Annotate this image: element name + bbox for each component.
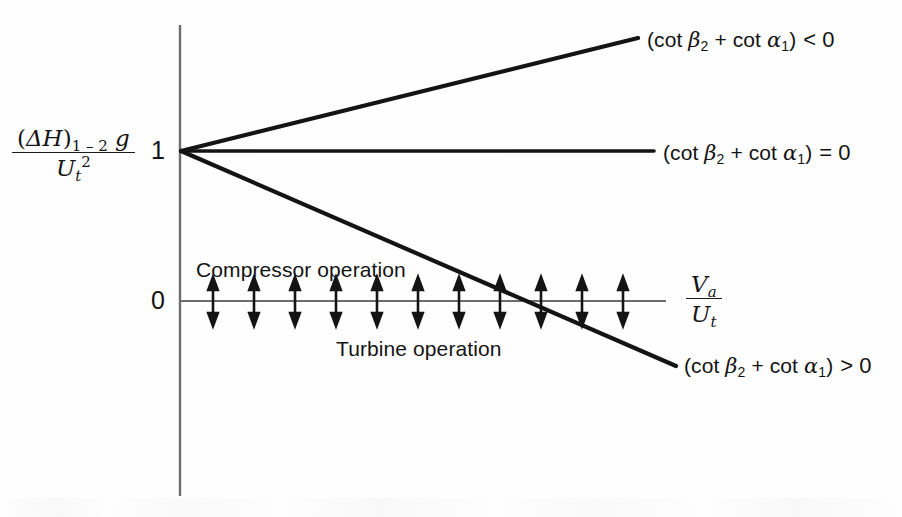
curve-label-negative-sum: (cot β2 + cot α1) < 0 bbox=[647, 27, 836, 53]
curve-label-positive-sum: (cot β2 + cot α1) > 0 bbox=[684, 353, 873, 379]
relation-operator: = 0 bbox=[818, 140, 852, 165]
scan-artifact bbox=[0, 498, 902, 517]
beta-subscript: 2 bbox=[717, 151, 725, 167]
beta-symbol: β bbox=[688, 28, 700, 52]
x-axis-title-fraction: Va Ut bbox=[686, 272, 722, 326]
alpha-symbol: α bbox=[804, 354, 818, 378]
tip-speed-subscript-x: t bbox=[710, 313, 716, 331]
alpha-subscript: 1 bbox=[797, 151, 805, 167]
tip-speed-symbol: U bbox=[56, 155, 75, 181]
beta-symbol: β bbox=[725, 354, 737, 378]
y-axis-title-numerator: (ΔH)1 – 2 g bbox=[12, 126, 135, 152]
relation-operator: > 0 bbox=[839, 353, 873, 378]
alpha-symbol: α bbox=[783, 141, 797, 165]
tip-speed-exponent: 2 bbox=[81, 153, 91, 171]
axial-velocity-subscript: a bbox=[708, 283, 717, 301]
beta-subscript: 2 bbox=[738, 364, 746, 380]
alpha-symbol: α bbox=[767, 28, 781, 52]
y-axis-title-denominator: Ut2 bbox=[12, 152, 135, 180]
y-axis-title-fraction: (ΔH)1 – 2 g Ut2 bbox=[12, 126, 135, 180]
chart-figure: (ΔH)1 – 2 g Ut2 Va Ut 1 0 Compressor ope… bbox=[0, 0, 902, 517]
curve-negative-sum bbox=[181, 38, 638, 151]
alpha-subscript: 1 bbox=[781, 38, 789, 54]
delta-h-symbol: ΔH bbox=[26, 125, 63, 151]
tip-speed-symbol-x: U bbox=[691, 301, 710, 327]
x-axis-title-denominator: Ut bbox=[686, 298, 722, 326]
y-tick-label-1: 1 bbox=[151, 136, 165, 165]
axial-velocity-symbol: V bbox=[691, 271, 708, 297]
gravity-symbol: g bbox=[115, 125, 130, 151]
turbine-operation-label: Turbine operation bbox=[336, 337, 502, 361]
y-tick-label-0: 0 bbox=[151, 286, 165, 315]
relation-operator: < 0 bbox=[802, 27, 836, 52]
beta-subscript: 2 bbox=[701, 38, 709, 54]
x-axis-title-numerator: Va bbox=[686, 272, 722, 298]
curve-label-zero-sum: (cot β2 + cot α1) = 0 bbox=[663, 140, 852, 166]
beta-symbol: β bbox=[704, 141, 716, 165]
compressor-operation-label: Compressor operation bbox=[196, 258, 406, 282]
alpha-subscript: 1 bbox=[818, 364, 826, 380]
y-axis-title: (ΔH)1 – 2 g Ut2 bbox=[12, 126, 135, 180]
x-axis-title: Va Ut bbox=[686, 272, 722, 326]
plot-canvas bbox=[0, 0, 902, 517]
